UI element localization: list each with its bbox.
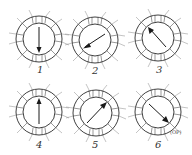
panel-5	[66, 84, 126, 142]
diagram-canvas: 1 2 3 4 5 (ОР) 6	[0, 0, 192, 155]
panel-3	[128, 9, 188, 67]
panel-6-annotation: (ОР)	[170, 129, 181, 135]
panel-label-3: 3	[156, 64, 162, 75]
panel-label-5: 5	[92, 139, 98, 150]
panel-4	[9, 83, 69, 141]
panel-label-6: 6	[155, 139, 162, 150]
panel-label-2: 2	[91, 65, 98, 76]
panel-1	[9, 10, 69, 68]
panel-label-1: 1	[37, 64, 43, 75]
panel-label-4: 4	[35, 139, 42, 150]
panel-2	[65, 11, 125, 69]
field-arrow-icon	[150, 29, 166, 47]
